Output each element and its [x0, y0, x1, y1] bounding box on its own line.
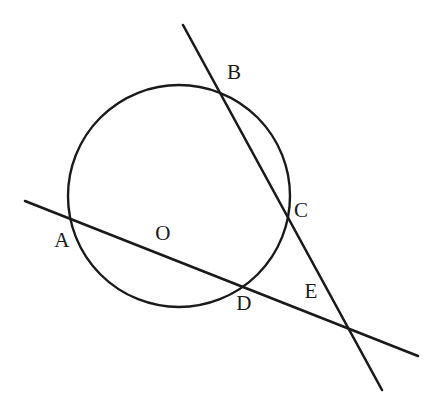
- geometry-canvas: [0, 0, 444, 398]
- point-label-a: A: [54, 230, 69, 251]
- point-label-o: O: [155, 223, 170, 244]
- geometry-figure: A B C D E O: [0, 0, 444, 398]
- point-label-b: B: [227, 62, 241, 83]
- point-label-e: E: [304, 281, 317, 302]
- point-label-c: C: [294, 200, 308, 221]
- secant-line-ad: [25, 201, 418, 356]
- point-label-d: D: [236, 293, 251, 314]
- secant-line-bc: [183, 25, 382, 390]
- circle-O: [68, 85, 290, 307]
